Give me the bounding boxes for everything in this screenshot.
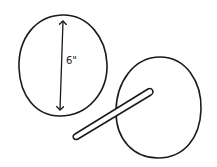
measured-circle: 6": [19, 15, 107, 116]
sketch-canvas: 6": [0, 0, 217, 167]
dimension-label: 6": [66, 55, 77, 66]
circle-with-stick: [73, 57, 201, 158]
stick-icon: [73, 89, 153, 140]
diameter-arrow-icon: [60, 21, 63, 110]
